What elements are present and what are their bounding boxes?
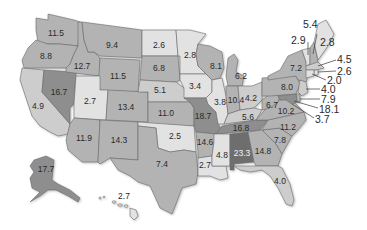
state-mi[interactable] bbox=[226, 54, 244, 86]
label-ne: 5.1 bbox=[154, 85, 166, 95]
label-ks: 11.0 bbox=[158, 108, 174, 118]
label-tn: 16.8 bbox=[233, 123, 250, 133]
label-il: 3.8 bbox=[214, 97, 226, 107]
label-ar: 14.6 bbox=[197, 137, 214, 147]
label-nm: 14.3 bbox=[111, 135, 128, 145]
label-tx: 7.4 bbox=[156, 159, 168, 169]
label-ak: 17.7 bbox=[38, 164, 55, 174]
state-ri[interactable] bbox=[314, 70, 318, 75]
label-ga: 14.8 bbox=[255, 146, 272, 156]
label-oh: 4.2 bbox=[245, 93, 257, 103]
state-ak[interactable] bbox=[30, 156, 80, 202]
state-fl[interactable] bbox=[234, 166, 294, 206]
label-wi: 8.1 bbox=[210, 61, 222, 71]
label-hi: 2.7 bbox=[118, 191, 130, 201]
label-pa: 8.0 bbox=[281, 82, 293, 92]
label-nd: 2.6 bbox=[153, 40, 165, 50]
label-ok: 2.5 bbox=[169, 131, 181, 141]
label-mt: 9.4 bbox=[106, 40, 118, 50]
us-choropleth-map: 11.5 8.8 4.9 16.7 12.7 9.4 11.5 2.7 11.9… bbox=[0, 0, 367, 230]
label-va: 10.2 bbox=[278, 106, 295, 116]
label-id: 12.7 bbox=[74, 61, 91, 71]
states-layer bbox=[20, 14, 334, 220]
label-ms: 4.8 bbox=[216, 150, 228, 160]
label-ca: 4.9 bbox=[32, 101, 44, 111]
label-ny: 7.2 bbox=[290, 63, 302, 73]
label-co: 13.4 bbox=[118, 102, 135, 112]
label-wv: 6.7 bbox=[266, 100, 278, 110]
callout-dc: 3.7 bbox=[315, 113, 330, 125]
label-nc: 11.2 bbox=[280, 122, 296, 132]
callout-nh: 5.4 bbox=[303, 18, 318, 30]
label-ky: 5.6 bbox=[242, 112, 254, 122]
callout-vt: 2.9 bbox=[291, 34, 306, 46]
label-la: 2.7 bbox=[199, 160, 211, 170]
label-in: 10.4 bbox=[228, 95, 245, 105]
label-al: 23.3 bbox=[234, 148, 251, 158]
label-ut: 2.7 bbox=[84, 96, 96, 106]
label-mn: 2.8 bbox=[184, 50, 196, 60]
label-fl: 4.0 bbox=[274, 176, 286, 186]
callout-ma: 4.5 bbox=[337, 53, 352, 65]
state-nj[interactable] bbox=[298, 80, 308, 96]
state-ny[interactable] bbox=[268, 50, 308, 82]
label-ia: 3.4 bbox=[189, 81, 201, 91]
label-wy: 11.5 bbox=[110, 71, 126, 81]
label-or: 8.8 bbox=[40, 51, 52, 61]
label-sd: 6.8 bbox=[153, 63, 165, 73]
label-mi: 6.2 bbox=[235, 71, 247, 81]
label-wa: 11.5 bbox=[48, 28, 64, 38]
label-nv: 16.7 bbox=[51, 87, 68, 97]
label-mo: 18.7 bbox=[195, 111, 212, 121]
callout-me: 2.8 bbox=[320, 36, 335, 48]
label-az: 11.9 bbox=[76, 133, 92, 143]
label-sc: 7.8 bbox=[274, 135, 286, 145]
